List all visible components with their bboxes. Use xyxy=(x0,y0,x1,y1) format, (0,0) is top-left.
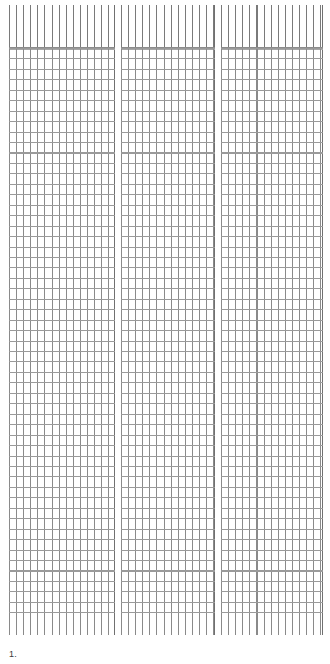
table-panel-middle[interactable] xyxy=(121,5,215,635)
table-grid xyxy=(9,5,323,635)
page-footer: 1. xyxy=(9,643,209,657)
page-number: 1. xyxy=(9,649,17,659)
table-body xyxy=(221,48,323,635)
body-bottom-stub xyxy=(9,613,115,635)
table-header-row xyxy=(9,5,115,48)
table-header-row xyxy=(121,5,215,48)
table-panel-right[interactable] xyxy=(221,5,323,635)
header-column-rules xyxy=(9,5,115,47)
body-row-rules xyxy=(9,48,115,613)
body-row-rules xyxy=(221,48,323,613)
body-row-rules xyxy=(121,48,215,613)
header-column-rules xyxy=(221,5,323,47)
header-column-rules xyxy=(121,5,215,47)
table-body xyxy=(9,48,115,635)
document-page: 1. xyxy=(0,0,330,664)
table-body xyxy=(121,48,215,635)
body-bottom-stub xyxy=(221,613,323,635)
table-header-row xyxy=(221,5,323,48)
table-panel-left[interactable] xyxy=(9,5,115,635)
body-bottom-stub xyxy=(121,613,215,635)
